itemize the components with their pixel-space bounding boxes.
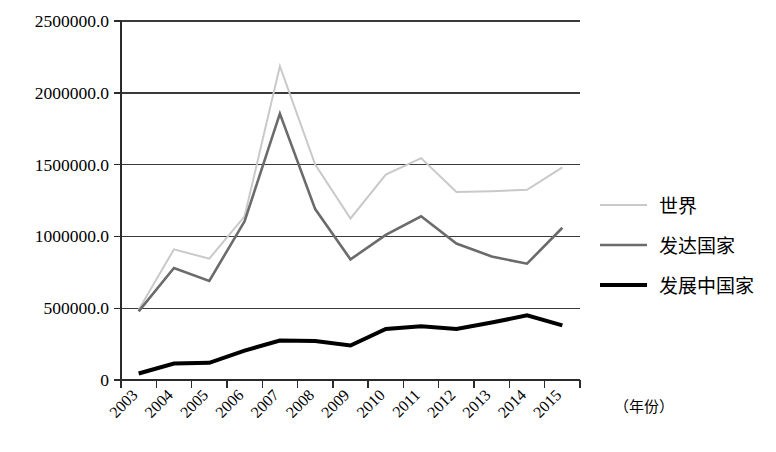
series-line-1: [139, 66, 563, 309]
y-tick-label: 500000.0: [43, 298, 109, 318]
gridlines: [121, 21, 580, 380]
x-tick-label: 2014: [495, 386, 530, 421]
chart-canvas: 0500000.01000000.01500000.02000000.02500…: [0, 0, 776, 452]
x-tick-label: 2013: [459, 386, 494, 421]
x-tick-label: 2010: [353, 386, 388, 421]
y-axis-tick-labels: 0500000.01000000.01500000.02000000.02500…: [35, 11, 110, 390]
x-tick-label: 2005: [177, 386, 212, 421]
y-tick-label: 1000000.0: [35, 226, 110, 246]
legend-label-2: 发达国家: [659, 236, 735, 257]
x-axis-tick-labels: 2003200420052006200720082009201020112012…: [106, 386, 564, 421]
y-tick-label: 1500000.0: [35, 155, 110, 175]
data-series: [139, 66, 563, 373]
line-chart-figure: 0500000.01000000.01500000.02000000.02500…: [0, 0, 776, 452]
series-line-2: [139, 114, 563, 312]
x-axis: [121, 380, 580, 388]
y-tick-label: 2000000.0: [35, 83, 110, 103]
x-tick-label: 2015: [530, 386, 565, 421]
legend-label-1: 世界: [659, 196, 697, 217]
x-tick-label: 2009: [318, 386, 353, 421]
x-tick-label: 2003: [106, 386, 141, 421]
x-tick-label: 2007: [247, 386, 282, 421]
y-axis: [114, 21, 121, 380]
chart-legend: 世界发达国家发展中国家: [600, 196, 754, 297]
x-tick-label: 2008: [283, 386, 318, 421]
y-tick-label: 0: [100, 370, 109, 390]
x-tick-label: 2004: [141, 386, 176, 421]
series-line-3: [139, 315, 563, 373]
legend-label-3: 发展中国家: [659, 276, 754, 297]
x-axis-title-label: （年份）: [614, 398, 674, 415]
y-tick-label: 2500000.0: [35, 11, 110, 31]
x-tick-label: 2012: [424, 386, 459, 421]
x-tick-label: 2006: [212, 386, 247, 421]
x-axis-title: （年份）: [614, 398, 674, 415]
x-tick-label: 2011: [389, 386, 423, 420]
